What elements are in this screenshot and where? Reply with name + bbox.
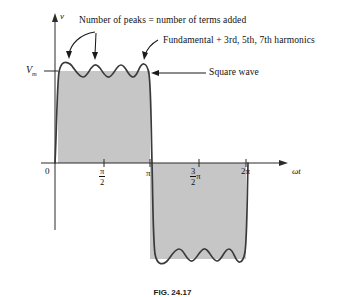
annotation-harmonics: Fundamental + 3rd, 5th, 7th harmonics (163, 35, 315, 45)
amplitude-label: Vm (26, 64, 37, 77)
y-axis-arrowhead (52, 13, 58, 22)
figure-caption-area: FIG. 24.17 (0, 288, 345, 297)
fraction-numerator: π (99, 167, 105, 176)
arrow-to-peak-2 (95, 33, 96, 55)
arrow-to-peak-1 (69, 32, 95, 54)
tick-label-2pi: 2π (241, 166, 250, 176)
arrowhead-peak-2 (92, 52, 98, 60)
fraction-pi-over-2: π 2 (99, 167, 105, 186)
fraction-denominator: 2 (99, 178, 105, 187)
x-axis-label: ωt (292, 166, 301, 176)
arrowhead-square-wave (151, 70, 159, 76)
origin-tick-label: 0 (45, 166, 50, 176)
fraction-pi-suffix: π (196, 171, 200, 181)
tick-label-pi: π (146, 168, 151, 178)
tick-label-3pi-over-2: 3 2 π (190, 167, 201, 186)
annotation-square-wave: Square wave (209, 67, 259, 77)
arrowhead-peak-4 (142, 51, 148, 60)
x-axis-arrowhead (279, 160, 288, 166)
arrowhead-peak-1 (66, 51, 72, 59)
tick-label-pi-over-2: π 2 (99, 167, 105, 186)
y-axis-label: v (60, 11, 64, 21)
annotation-number-of-peaks: Number of peaks = number of terms added (79, 15, 246, 25)
figure-caption: FIG. 24.17 (0, 288, 345, 297)
amplitude-subscript: m (32, 70, 37, 77)
positive-half-cycle-fill (58, 71, 150, 163)
